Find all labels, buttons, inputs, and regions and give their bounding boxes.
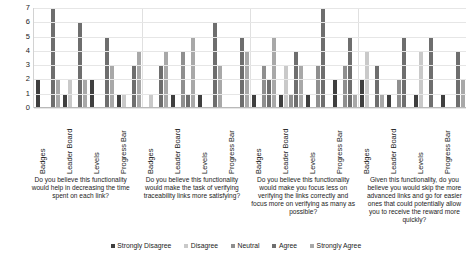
y-axis: 01234567 xyxy=(18,8,32,108)
category-label: Levels xyxy=(201,152,209,174)
bar xyxy=(402,37,406,108)
category-cell: Levels xyxy=(304,118,331,174)
bar xyxy=(414,94,418,108)
gridline xyxy=(34,79,466,80)
question-captions: Do you believe this functionality would … xyxy=(25,176,470,234)
legend-label: Strongly Disagree xyxy=(117,242,171,249)
bar xyxy=(272,37,276,108)
legend-item[interactable]: Disagree xyxy=(184,242,218,249)
bar xyxy=(191,37,195,108)
question-label: Do you believe this functionality would … xyxy=(248,176,359,234)
plot-canvas xyxy=(33,8,466,108)
category-label: Progress Bar xyxy=(444,130,452,174)
bar xyxy=(240,37,244,108)
legend-swatch xyxy=(231,244,235,248)
question-label: Do you believe this functionality would … xyxy=(136,176,247,234)
bar xyxy=(122,94,126,108)
category-label: Progress Bar xyxy=(336,130,344,174)
bar xyxy=(149,94,153,108)
category-label: Badges xyxy=(255,149,263,174)
gridline xyxy=(34,51,466,52)
bar xyxy=(262,65,266,108)
bar xyxy=(110,65,114,108)
y-tick-label: 4 xyxy=(26,47,30,55)
y-tick-label: 2 xyxy=(26,76,30,84)
category-axis-labels: BadgesLeader BoardLevelsProgress BarBadg… xyxy=(33,118,466,174)
legend-swatch xyxy=(111,244,115,248)
bar xyxy=(343,65,347,108)
bar xyxy=(387,94,391,108)
legend-item[interactable]: Strongly Disagree xyxy=(111,242,172,249)
bar xyxy=(348,37,352,108)
legend-label: Disagree xyxy=(191,242,218,249)
category-cell: Progress Bar xyxy=(222,118,249,174)
bar xyxy=(353,94,357,108)
category-group: BadgesLeader BoardLevelsProgress Bar xyxy=(141,118,249,174)
bar xyxy=(429,37,433,108)
category-cell: Levels xyxy=(195,118,222,174)
legend-item[interactable]: Neutral xyxy=(231,242,259,249)
category-cell: Badges xyxy=(141,118,168,174)
category-label: Progress Bar xyxy=(228,130,236,174)
y-tick-label: 0 xyxy=(26,104,30,112)
category-cell: Badges xyxy=(33,118,60,174)
category-cell: Leader Board xyxy=(277,118,304,174)
category-cell: Badges xyxy=(250,118,277,174)
category-label: Badges xyxy=(39,149,47,174)
gridline xyxy=(34,37,466,38)
question-label: Do you believe this functionality would … xyxy=(25,176,136,234)
category-label: Leader Board xyxy=(390,129,398,174)
category-label: Progress Bar xyxy=(120,130,128,174)
category-label: Leader Board xyxy=(66,129,74,174)
category-cell: Leader Board xyxy=(60,118,87,174)
category-label: Badges xyxy=(363,149,371,174)
category-label: Levels xyxy=(309,152,317,174)
category-cell: Leader Board xyxy=(168,118,195,174)
bar xyxy=(299,65,303,108)
category-label: Levels xyxy=(417,152,425,174)
category-label: Levels xyxy=(93,152,101,174)
category-label: Badges xyxy=(147,149,155,174)
bar xyxy=(159,65,163,108)
bar xyxy=(117,94,121,108)
gridline xyxy=(34,94,466,95)
legend-item[interactable]: Agree xyxy=(272,242,297,249)
bar xyxy=(289,94,293,108)
category-cell: Progress Bar xyxy=(439,118,466,174)
legend-swatch xyxy=(184,244,188,248)
bar xyxy=(252,94,256,108)
y-tick-label: 7 xyxy=(26,4,30,12)
y-tick-label: 5 xyxy=(26,33,30,41)
category-cell: Leader Board xyxy=(385,118,412,174)
bar xyxy=(306,94,310,108)
category-cell: Badges xyxy=(358,118,385,174)
category-group: BadgesLeader BoardLevelsProgress Bar xyxy=(358,118,466,174)
bar xyxy=(186,94,190,108)
category-label: Leader Board xyxy=(174,129,182,174)
bar xyxy=(441,94,445,108)
gridline xyxy=(34,108,466,109)
gridline xyxy=(34,22,466,23)
legend-label: Neutral xyxy=(238,242,260,249)
legend-label: Agree xyxy=(279,242,297,249)
category-cell: Levels xyxy=(412,118,439,174)
legend-item[interactable]: Strongly Agree xyxy=(310,242,361,249)
gridline xyxy=(34,65,466,66)
category-group: BadgesLeader BoardLevelsProgress Bar xyxy=(250,118,358,174)
gridline xyxy=(34,8,466,9)
legend-label: Strongly Agree xyxy=(317,242,362,249)
category-cell: Progress Bar xyxy=(114,118,141,174)
grouped-bar-chart: 01234567 BadgesLeader BoardLevelsProgres… xyxy=(0,0,472,266)
bar xyxy=(198,94,202,108)
category-cell: Levels xyxy=(87,118,114,174)
bar xyxy=(218,65,222,108)
bar xyxy=(375,65,379,108)
bar xyxy=(279,94,283,108)
y-tick-label: 3 xyxy=(26,61,30,69)
legend-swatch xyxy=(272,244,276,248)
bar xyxy=(132,65,136,108)
y-tick-label: 1 xyxy=(26,90,30,98)
y-tick-label: 6 xyxy=(26,19,30,27)
bar xyxy=(316,65,320,108)
bar xyxy=(284,65,288,108)
